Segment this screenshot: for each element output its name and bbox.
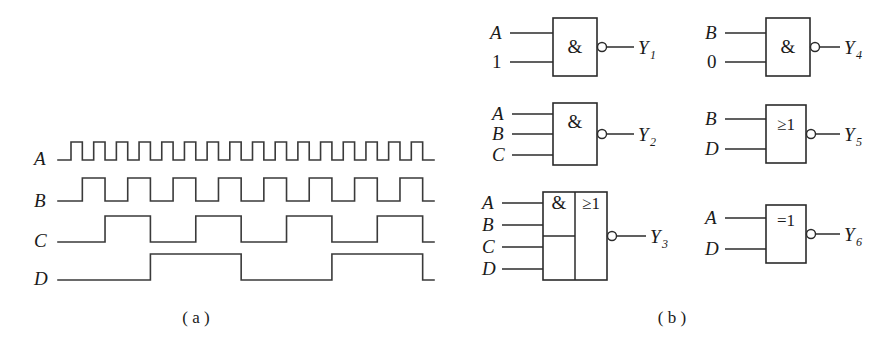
gate-y5[interactable]: ≥1 B D Y 5 [704, 105, 862, 163]
gate-y6-input-label-1: A [703, 207, 717, 228]
waveform-label-c: C [34, 230, 47, 251]
panel-a-waveforms: A B C D ( a ) [32, 142, 434, 327]
gate-y2-input-label-2: B [492, 123, 504, 144]
gate-y2[interactable]: & A B C Y 2 [490, 103, 656, 165]
gate-y5-invert-bubble-icon [807, 130, 816, 139]
gate-y5-input-label-2: D [704, 138, 719, 159]
gate-y1-output-subscript: 1 [650, 48, 656, 62]
gate-y2-invert-bubble-icon [598, 130, 607, 139]
gate-y1-input-label-1: A [488, 22, 502, 43]
panel-caption-a: ( a ) [182, 308, 209, 327]
and-symbol: & [781, 36, 796, 57]
gate-y3-input-label-1: A [480, 192, 494, 213]
gate-y6-output-subscript: 6 [856, 235, 862, 249]
gate-y3[interactable]: & ≥1 A B C D Y 3 [480, 192, 668, 280]
gate-y2-input-label-1: A [490, 103, 504, 124]
gate-y3-input-label-2: B [482, 214, 494, 235]
waveform-trace-a [58, 142, 434, 160]
gate-y4-input-label-2: 0 [707, 51, 717, 72]
gate-y1-input-label-2: 1 [492, 51, 502, 72]
gate-y2-input-label-3: C [492, 144, 505, 165]
and-symbol: & [568, 36, 583, 57]
gate-y5-body [766, 105, 806, 163]
and-symbol: & [552, 192, 567, 213]
gate-y4-input-label-1: B [705, 22, 717, 43]
or-symbol: ≥1 [777, 115, 795, 134]
gate-y6-invert-bubble-icon [807, 230, 816, 239]
gate-y2-output-subscript: 2 [650, 135, 656, 149]
gate-y3-output-subscript: 3 [661, 237, 668, 251]
gate-y3-input-label-3: C [482, 236, 495, 257]
gate-y6-input-label-2: D [704, 238, 719, 259]
gate-y4-output-subscript: 4 [856, 48, 862, 62]
waveform-label-b: B [34, 190, 46, 211]
gate-y6[interactable]: =1 A D Y 6 [703, 205, 862, 263]
gate-y3-input-label-4: D [481, 258, 496, 279]
figure-root: A B C D ( a ) & A 1 Y 1 [0, 0, 882, 353]
waveform-label-a: A [32, 148, 46, 169]
or-symbol: ≥1 [582, 194, 600, 213]
gate-y1-invert-bubble-icon [598, 43, 607, 52]
and-symbol: & [568, 111, 583, 132]
gate-y5-input-label-1: B [705, 108, 717, 129]
logic-figure: A B C D ( a ) & A 1 Y 1 [0, 0, 882, 353]
gate-y1[interactable]: & A 1 Y 1 [488, 18, 656, 76]
waveform-label-d: D [33, 268, 48, 289]
gate-y5-output-subscript: 5 [856, 135, 862, 149]
gate-y3-invert-bubble-icon [608, 232, 617, 241]
waveform-trace-d [58, 254, 434, 280]
gate-y4[interactable]: & B 0 Y 4 [705, 18, 862, 76]
waveform-trace-b [58, 178, 434, 201]
gate-y4-invert-bubble-icon [811, 43, 820, 52]
panel-caption-b: ( b ) [658, 308, 686, 327]
xor-symbol: =1 [777, 211, 795, 230]
waveform-trace-c [58, 216, 434, 242]
panel-b-gates: & A 1 Y 1 & A B C [480, 18, 862, 327]
